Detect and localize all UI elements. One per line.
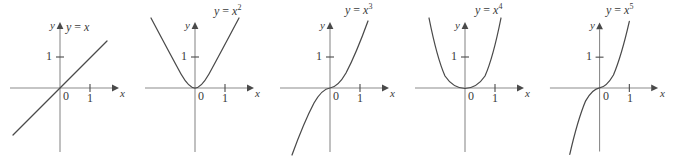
y-tick-label-3: 1 [316,50,322,62]
x-axis-arrowhead-icon [651,85,658,92]
x-axis-arrowhead-icon [247,85,254,92]
graph-panel-4: y x 0 1 1 y = x4 [405,0,540,159]
x-axis-label-4: x [525,88,530,99]
y-axis-label-4: y [455,20,460,31]
y-axis-arrowhead-icon [596,22,603,29]
origin-label-2: 0 [198,90,204,102]
y-axis-label-2: y [185,20,190,31]
equation-label-5: y = x5 [606,4,633,16]
y-tick-label-5: 1 [586,50,592,62]
graph-canvas-5 [540,0,675,159]
y-tick-label-2: 1 [181,50,187,62]
x-tick-label-4: 1 [492,92,498,104]
origin-label-3: 0 [333,90,339,102]
origin-label-5: 0 [603,90,609,102]
equation-label-1: y = x [66,21,89,33]
x-axis-arrowhead-icon [112,85,119,92]
equation-label-3: y = x3 [345,4,372,16]
power-functions-figure: y x 0 1 1 y = x y x 0 1 1 y = x2 [0,0,676,159]
y-axis-label-3: y [320,20,325,31]
x-tick-label-1: 1 [87,92,93,104]
x-tick-label-5: 1 [627,92,633,104]
axes-5 [550,22,658,151]
axes-1 [10,22,119,152]
x-tick-label-3: 1 [357,92,363,104]
graph-panel-1: y x 0 1 1 y = x [0,0,135,159]
x-axis-arrowhead-icon [382,85,389,92]
graph-canvas-4 [405,0,540,159]
x-axis-label-1: x [120,88,125,99]
origin-label-4: 0 [468,90,474,102]
axes-2 [145,22,254,152]
graph-panel-2: y x 0 1 1 y = x2 [135,0,270,159]
y-axis-arrowhead-icon [327,22,334,29]
x-axis-label-3: x [390,88,395,99]
axes-4 [415,22,524,152]
y-axis-arrowhead-icon [462,22,469,29]
x-axis-label-2: x [255,88,260,99]
equation-label-4: y = x4 [475,4,502,16]
graph-panel-5: y x 0 1 1 y = x5 [540,0,676,159]
y-tick-label-1: 1 [46,50,52,62]
x-axis-label-5: x [660,88,665,99]
y-axis-label-1: y [50,20,55,31]
x-axis-arrowhead-icon [517,85,524,92]
x-tick-label-2: 1 [222,92,228,104]
graph-canvas-2 [135,0,270,159]
y-axis-arrowhead-icon [192,22,199,29]
y-axis-arrowhead-icon [57,22,64,29]
y-axis-label-5: y [590,20,595,31]
graph-panel-3: y x 0 1 1 y = x3 [270,0,405,159]
origin-label-1: 0 [63,90,69,102]
graph-canvas-3 [270,0,405,159]
equation-label-2: y = x2 [214,5,241,17]
y-tick-label-4: 1 [451,50,457,62]
